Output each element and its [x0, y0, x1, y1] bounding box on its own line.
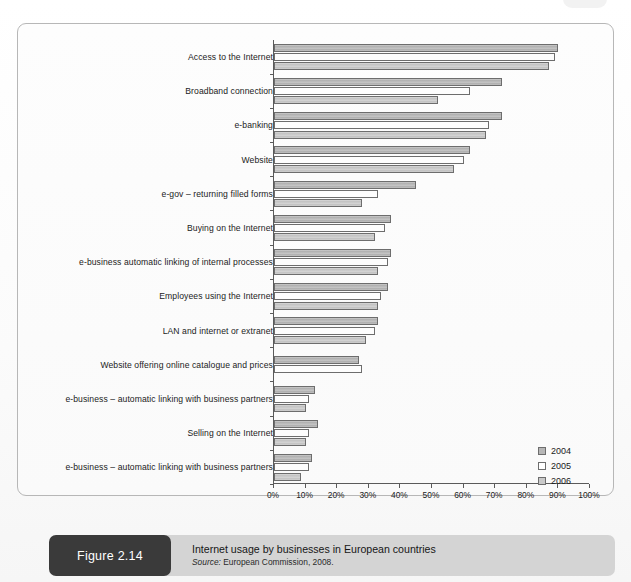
- value-axis-tick-label: 90%: [549, 490, 566, 500]
- legend-item: 2005: [538, 458, 608, 473]
- bar-2005: [274, 395, 309, 403]
- category-label: e-banking: [28, 108, 273, 142]
- bar-2006: [274, 473, 301, 481]
- caption-source-prefix: Source:: [192, 557, 221, 567]
- category-label: Access to the Internet: [28, 40, 273, 74]
- value-axis-tick-label: 60%: [454, 490, 471, 500]
- bar-group: [274, 177, 589, 211]
- bar-2006: [274, 165, 454, 173]
- bar-group: [274, 245, 589, 279]
- value-axis-tick: [431, 484, 432, 488]
- figure-number-tag: Figure 2.14: [49, 535, 171, 576]
- bar-group: [274, 279, 589, 313]
- bar-2005: [274, 258, 388, 266]
- bar-2005: [274, 292, 381, 300]
- value-axis-tick: [463, 484, 464, 488]
- value-axis-tick: [273, 484, 274, 488]
- category-label: Broadband connection: [28, 74, 273, 108]
- bar-2005: [274, 87, 470, 95]
- plot-area: [273, 40, 589, 484]
- caption-source-text: European Commission, 2008.: [223, 557, 333, 567]
- bar-2004: [274, 112, 502, 120]
- value-axis-tick-label: 80%: [517, 490, 534, 500]
- category-label: Selling on the Internet: [28, 416, 273, 450]
- bar-2005: [274, 429, 309, 437]
- value-axis-tick-label: 100%: [578, 490, 599, 500]
- bar-group: [274, 74, 589, 108]
- bar-2005: [274, 327, 375, 335]
- category-label: e-business – automatic linking with busi…: [28, 382, 273, 416]
- bar-2004: [274, 283, 388, 291]
- figure-caption: Figure 2.14 Internet usage by businesses…: [49, 535, 615, 576]
- bar-2006: [274, 62, 549, 70]
- value-axis-tick: [305, 484, 306, 488]
- bar-2006: [274, 131, 486, 139]
- value-axis-tick-label: 70%: [486, 490, 503, 500]
- bar-2005: [274, 53, 555, 61]
- bar-chart: Access to the InternetBroadband connecti…: [18, 24, 615, 497]
- value-axis-tick: [368, 484, 369, 488]
- value-axis-tick: [526, 484, 527, 488]
- bar-group: [274, 382, 589, 416]
- bar-2006: [274, 404, 306, 412]
- category-label: e-gov – returning filled forms: [28, 177, 273, 211]
- page-scan-artifact: [563, 0, 607, 8]
- value-axis-tick: [336, 484, 337, 488]
- bar-2005: [274, 463, 309, 471]
- bar-2004: [274, 356, 359, 364]
- bar-2004: [274, 249, 391, 257]
- category-label: Buying on the Internet: [28, 211, 273, 245]
- legend-swatch-icon: [538, 477, 546, 485]
- bar-2005: [274, 121, 489, 129]
- bar-2006: [274, 336, 366, 344]
- bar-2006: [274, 233, 375, 241]
- bar-2006: [274, 96, 438, 104]
- caption-title: Internet usage by businesses in European…: [192, 543, 592, 556]
- bar-2004: [274, 420, 318, 428]
- category-axis-labels: Access to the InternetBroadband connecti…: [28, 40, 273, 484]
- legend-swatch-icon: [538, 462, 546, 470]
- caption-source: Source: European Commission, 2008.: [192, 556, 592, 568]
- value-axis-tick: [494, 484, 495, 488]
- bar-group: [274, 143, 589, 177]
- bar-group: [274, 40, 589, 74]
- bar-2004: [274, 146, 470, 154]
- bar-2005: [274, 190, 378, 198]
- page-background: Access to the InternetBroadband connecti…: [0, 0, 631, 582]
- category-label: Employees using the Internet: [28, 279, 273, 313]
- category-label: LAN and internet or extranet: [28, 314, 273, 348]
- bar-2004: [274, 44, 558, 52]
- value-axis-tick-label: 30%: [359, 490, 376, 500]
- value-axis-tick: [399, 484, 400, 488]
- legend-label: 2006: [551, 476, 571, 486]
- value-axis-tick-label: 20%: [328, 490, 345, 500]
- bar-2004: [274, 78, 502, 86]
- legend-item: 2004: [538, 443, 608, 458]
- bar-2004: [274, 454, 312, 462]
- figure-frame: Access to the InternetBroadband connecti…: [17, 23, 614, 496]
- bar-2005: [274, 365, 362, 373]
- legend-item: 2006: [538, 473, 608, 488]
- bar-2006: [274, 267, 378, 275]
- bar-group: [274, 108, 589, 142]
- chart-legend: 200420052006: [538, 443, 608, 488]
- bar-group: [274, 314, 589, 348]
- value-axis-tick-label: 50%: [423, 490, 440, 500]
- caption-text-block: Internet usage by businesses in European…: [192, 543, 592, 568]
- bar-2004: [274, 386, 315, 394]
- bar-2004: [274, 215, 391, 223]
- plot-region: [273, 40, 589, 484]
- bar-2006: [274, 438, 306, 446]
- legend-label: 2004: [551, 446, 571, 456]
- legend-label: 2005: [551, 461, 571, 471]
- category-label: Website: [28, 143, 273, 177]
- value-axis-tick-label: 40%: [391, 490, 408, 500]
- category-label: Website offering online catalogue and pr…: [28, 348, 273, 382]
- bar-2005: [274, 224, 385, 232]
- bar-2004: [274, 181, 416, 189]
- category-label: e-business – automatic linking with busi…: [28, 450, 273, 484]
- bar-2004: [274, 317, 378, 325]
- bar-2005: [274, 156, 464, 164]
- value-axis-tick-label: 10%: [296, 490, 313, 500]
- bar-2006: [274, 199, 362, 207]
